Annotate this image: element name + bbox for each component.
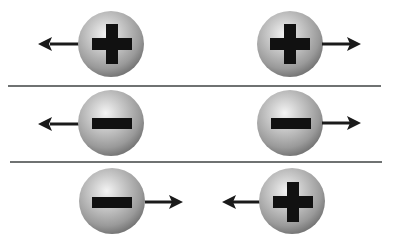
arrow-left-icon xyxy=(38,37,80,51)
arrow-right-icon xyxy=(322,116,361,130)
diagram-canvas xyxy=(0,0,393,244)
charge-interaction-diagram: Like charges repel, opposite charges att… xyxy=(0,0,393,244)
minus-icon xyxy=(92,118,132,129)
positive-charge-sphere xyxy=(259,168,325,234)
minus-icon xyxy=(271,118,311,129)
positive-charge-sphere xyxy=(257,11,323,77)
arrow-left-icon xyxy=(222,195,260,209)
positive-charge-sphere xyxy=(78,11,144,77)
negative-charge-sphere xyxy=(257,90,323,156)
negative-charge-sphere xyxy=(78,90,144,156)
row-negative-positive xyxy=(79,168,325,234)
row-positive-positive xyxy=(38,11,361,77)
arrow-right-icon xyxy=(145,195,183,209)
arrow-right-icon xyxy=(322,37,361,51)
minus-icon xyxy=(92,197,132,208)
negative-charge-sphere xyxy=(79,168,145,234)
arrow-left-icon xyxy=(38,117,80,131)
row-negative-negative xyxy=(38,90,361,156)
